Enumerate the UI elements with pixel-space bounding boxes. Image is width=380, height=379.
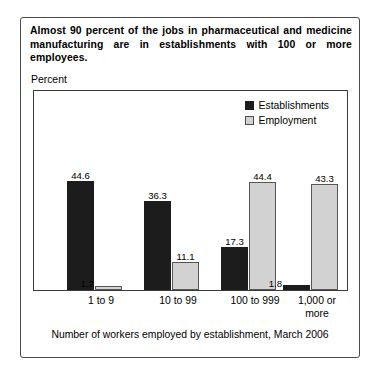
bar-value-employment-100-to-999: 44.4 — [253, 171, 272, 182]
bar-employment-100-to-999: 44.4 — [249, 182, 276, 290]
bar-employment-10-to-99: 11.1 — [172, 262, 199, 290]
footer-caption: Number of workers employed by establishm… — [21, 328, 359, 341]
bar-value-employment-1-to-9: 1.2 — [81, 278, 94, 289]
bar-group-100-to-999: 17.3 44.4 — [221, 91, 291, 290]
bar-value-establishments-100-to-999: 17.3 — [225, 236, 244, 247]
category-axis: 1 to 9 10 to 99 100 to 999 1,000 or more — [33, 294, 348, 328]
chart-headline: Almost 90 percent of the jobs in pharmac… — [30, 24, 352, 78]
category-label-1000-or-more-line1: 1,000 or — [298, 295, 336, 306]
bar-group-10-to-99: 36.3 11.1 — [144, 91, 214, 290]
bar-employment-1-to-9: 1.2 — [95, 286, 122, 290]
bar-value-employment-10-to-99: 11.1 — [177, 251, 195, 262]
bar-establishments-100-to-999: 17.3 — [221, 247, 248, 290]
bar-value-establishments-1-to-9: 44.6 — [71, 170, 90, 181]
category-label-1000-or-more: 1,000 or more — [275, 294, 359, 320]
plot-area: Establishments Employment 44.6 1.2 36.3 — [33, 90, 348, 291]
bar-establishments-1000-or-more: 1.8 — [283, 285, 310, 290]
bar-value-establishments-10-to-99: 36.3 — [148, 190, 167, 201]
bar-value-employment-1000-or-more: 43.3 — [315, 173, 334, 184]
bar-group-1-to-9: 44.6 1.2 — [67, 91, 137, 290]
category-label-1000-or-more-line2: more — [305, 308, 329, 319]
category-label-1-to-9: 1 to 9 — [59, 294, 143, 307]
bars-area: 44.6 1.2 36.3 11.1 17.3 — [34, 91, 347, 290]
bar-employment-1000-or-more: 43.3 — [311, 184, 338, 290]
bar-establishments-10-to-99: 36.3 — [144, 201, 171, 290]
bar-establishments-1-to-9: 44.6 — [67, 181, 94, 290]
bar-value-establishments-1000-or-more: 1.8 — [269, 278, 282, 289]
bar-group-1000-or-more: 1.8 43.3 — [283, 91, 353, 290]
y-axis-caption: Percent — [31, 74, 67, 86]
category-label-10-to-99: 10 to 99 — [136, 294, 220, 307]
chart-card: Almost 90 percent of the jobs in pharmac… — [20, 17, 360, 358]
